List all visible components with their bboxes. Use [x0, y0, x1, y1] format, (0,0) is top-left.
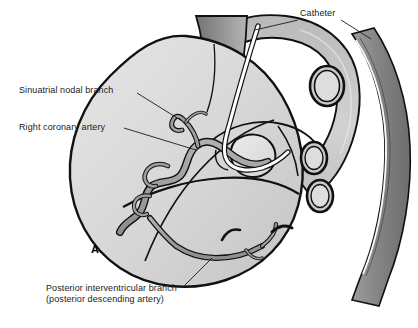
vessel-cross-section-3 [307, 180, 333, 212]
label-sinuatrial-nodal-branch: Sinuatrial nodal branch [19, 85, 113, 96]
vessel-cross-section-2 [301, 142, 327, 174]
anatomical-figure: Sinuatrial nodal branch Right coronary a… [0, 0, 418, 328]
label-catheter: Catheter [300, 8, 335, 19]
heart-illustration-canvas [0, 0, 418, 328]
panel-letter: A [91, 243, 99, 255]
label-pib-line2: (posterior descending artery) [46, 294, 177, 305]
label-posterior-interventricular-branch: Posterior interventricular branch (poste… [46, 283, 177, 305]
label-right-coronary-artery: Right coronary artery [19, 122, 105, 133]
vessel-cross-section-1 [310, 66, 344, 106]
label-pib-line1: Posterior interventricular branch [46, 283, 177, 294]
descending-aorta [352, 28, 410, 306]
